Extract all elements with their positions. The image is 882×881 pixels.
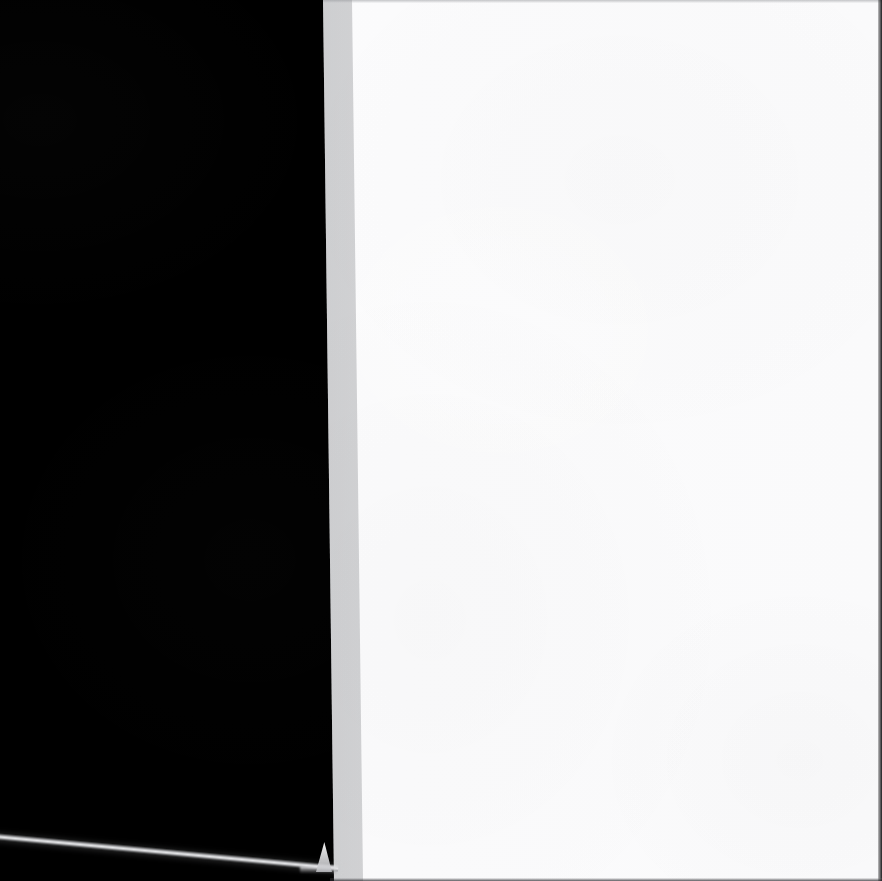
- scene-canvas: [0, 0, 882, 881]
